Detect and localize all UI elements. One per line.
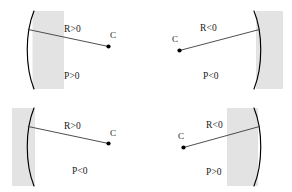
- center-of-curvature-dot-panel-1: [106, 44, 110, 48]
- radius-label-panel-3: R>0: [64, 121, 81, 131]
- center-of-curvature-dot-panel-3: [106, 141, 110, 145]
- medium-shading-region-panel-2: [256, 11, 283, 89]
- medium-shading-region-panel-3: [12, 108, 35, 186]
- power-label-panel-1: P>0: [64, 71, 80, 81]
- center-label-panel-1: C: [110, 30, 116, 40]
- radius-line-panel-2: [180, 30, 260, 51]
- optics-sign-convention-figure: R>0 C P>0 C R<0 P<0: [0, 0, 292, 192]
- panel-bottom-right: C R<0 P>0: [178, 108, 261, 186]
- medium-shading-region-panel-1: [33, 11, 65, 89]
- radius-label-panel-1: R>0: [64, 24, 81, 34]
- power-label-panel-2: P<0: [203, 71, 219, 81]
- medium-shading-region-panel-4: [227, 108, 258, 186]
- radius-label-panel-4: R<0: [206, 120, 223, 130]
- center-label-panel-3: C: [110, 128, 116, 138]
- power-label-panel-3: P<0: [72, 166, 88, 176]
- power-label-panel-4: P>0: [206, 167, 222, 177]
- panel-top-left: R>0 C P>0: [27, 11, 116, 89]
- center-of-curvature-dot-panel-2: [177, 48, 181, 52]
- radius-label-panel-2: R<0: [200, 23, 217, 33]
- center-label-panel-4: C: [178, 131, 184, 141]
- panel-bottom-left: R>0 C P<0: [12, 108, 116, 186]
- center-label-panel-2: C: [172, 34, 178, 44]
- figure-canvas: R>0 C P>0 C R<0 P<0: [0, 0, 292, 192]
- center-of-curvature-dot-panel-4: [181, 145, 185, 149]
- panel-top-right: C R<0 P<0: [172, 11, 283, 89]
